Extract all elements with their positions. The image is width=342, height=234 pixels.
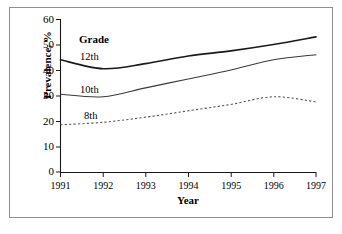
x-tick-label-1996: 1996 bbox=[252, 180, 296, 191]
y-axis-title: Prevalence, % bbox=[41, 31, 53, 99]
y-tick-label-20: 20 bbox=[26, 116, 54, 127]
x-tick-label-1995: 1995 bbox=[209, 180, 253, 191]
y-axis-title-wrap: Prevalence, % bbox=[37, 15, 55, 115]
x-tick-label-1994: 1994 bbox=[167, 180, 211, 191]
y-tick-label-0: 0 bbox=[26, 166, 54, 177]
series-label-12th: 12th bbox=[80, 51, 99, 62]
x-tick-label-1991: 1991 bbox=[39, 180, 83, 191]
x-tick-label-1993: 1993 bbox=[124, 180, 168, 191]
series-line-8th bbox=[61, 97, 317, 125]
chart-figure: 60 50 40 30 20 10 0 1991 1992 1993 1994 … bbox=[0, 0, 342, 234]
y-axis-ticks bbox=[56, 20, 60, 173]
series-label-8th: 8th bbox=[84, 110, 97, 121]
series-label-10th: 10th bbox=[80, 84, 99, 95]
x-axis-title: Year bbox=[60, 194, 316, 206]
x-tick-label-1997: 1997 bbox=[294, 180, 338, 191]
y-tick-label-10: 10 bbox=[26, 141, 54, 152]
x-tick-label-1992: 1992 bbox=[81, 180, 125, 191]
legend-title: Grade bbox=[79, 33, 109, 45]
